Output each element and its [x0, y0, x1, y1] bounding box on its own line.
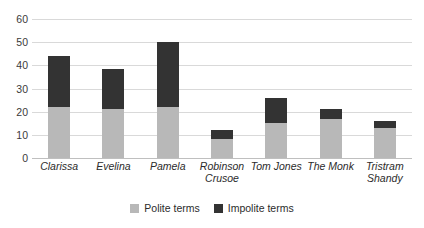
x-axis-tick-line: The Monk — [303, 161, 359, 173]
y-axis: 0102030405060 — [0, 19, 28, 158]
x-axis-tick-label: Pamela — [140, 161, 196, 173]
x-axis-tick-label: TristramShandy — [357, 161, 413, 184]
bar-stack[interactable] — [48, 56, 70, 158]
legend-item[interactable]: Impolite terms — [214, 203, 294, 214]
bar-segment-impolite[interactable] — [157, 42, 179, 107]
legend-swatch — [214, 204, 223, 213]
bar-segment-impolite[interactable] — [320, 109, 342, 118]
bar-segment-impolite[interactable] — [102, 69, 124, 110]
bar-segment-polite[interactable] — [374, 128, 396, 158]
bar-segment-impolite[interactable] — [211, 130, 233, 139]
bar-stack[interactable] — [374, 121, 396, 158]
gridline — [32, 89, 412, 90]
x-axis-tick-line: Shandy — [357, 173, 413, 185]
x-axis-tick-line: Crusoe — [194, 173, 250, 185]
x-axis-tick-line: Tristram — [357, 161, 413, 173]
y-axis-tick-label: 30 — [2, 83, 28, 94]
bar-stack[interactable] — [157, 42, 179, 158]
legend-item[interactable]: Polite terms — [130, 203, 199, 214]
legend-label: Polite terms — [144, 203, 199, 214]
y-axis-tick-label: 50 — [2, 37, 28, 48]
legend-swatch — [130, 204, 139, 213]
y-axis-tick-label: 10 — [2, 130, 28, 141]
x-axis-tick-label: The Monk — [303, 161, 359, 173]
bar-segment-polite[interactable] — [320, 119, 342, 158]
gridline — [32, 19, 412, 20]
x-axis-tick-line: Tom Jones — [248, 161, 304, 173]
x-axis-tick-line: Evelina — [85, 161, 141, 173]
x-axis: ClarissaEvelinaPamelaRobinsonCrusoeTom J… — [32, 161, 412, 201]
x-axis-tick-label: Tom Jones — [248, 161, 304, 173]
bar-segment-polite[interactable] — [102, 109, 124, 158]
bar-segment-impolite[interactable] — [374, 121, 396, 128]
bar-segment-impolite[interactable] — [265, 98, 287, 123]
gridline — [32, 42, 412, 43]
axis-baseline — [32, 158, 412, 159]
bar-stack[interactable] — [102, 69, 124, 158]
gridline — [32, 65, 412, 66]
bar-segment-polite[interactable] — [157, 107, 179, 158]
gridline — [32, 112, 412, 113]
bar-stack[interactable] — [320, 109, 342, 158]
stacked-bar-chart: 0102030405060 ClarissaEvelinaPamelaRobin… — [0, 0, 424, 228]
x-axis-tick-label: Evelina — [85, 161, 141, 173]
x-axis-tick-line: Clarissa — [31, 161, 87, 173]
bar-stack[interactable] — [211, 130, 233, 158]
legend-label: Impolite terms — [228, 203, 294, 214]
x-axis-tick-label: RobinsonCrusoe — [194, 161, 250, 184]
x-axis-tick-label: Clarissa — [31, 161, 87, 173]
x-axis-tick-line: Robinson — [194, 161, 250, 173]
bar-segment-impolite[interactable] — [48, 56, 70, 107]
y-axis-tick-label: 20 — [2, 106, 28, 117]
bar-segment-polite[interactable] — [48, 107, 70, 158]
bar-stack[interactable] — [265, 98, 287, 158]
y-axis-tick-label: 40 — [2, 60, 28, 71]
y-axis-tick-label: 60 — [2, 14, 28, 25]
x-axis-tick-line: Pamela — [140, 161, 196, 173]
chart-legend: Polite termsImpolite terms — [0, 203, 424, 214]
plot-area — [32, 19, 412, 158]
bar-segment-polite[interactable] — [265, 123, 287, 158]
y-axis-tick-label: 0 — [2, 153, 28, 164]
bar-segment-polite[interactable] — [211, 139, 233, 158]
